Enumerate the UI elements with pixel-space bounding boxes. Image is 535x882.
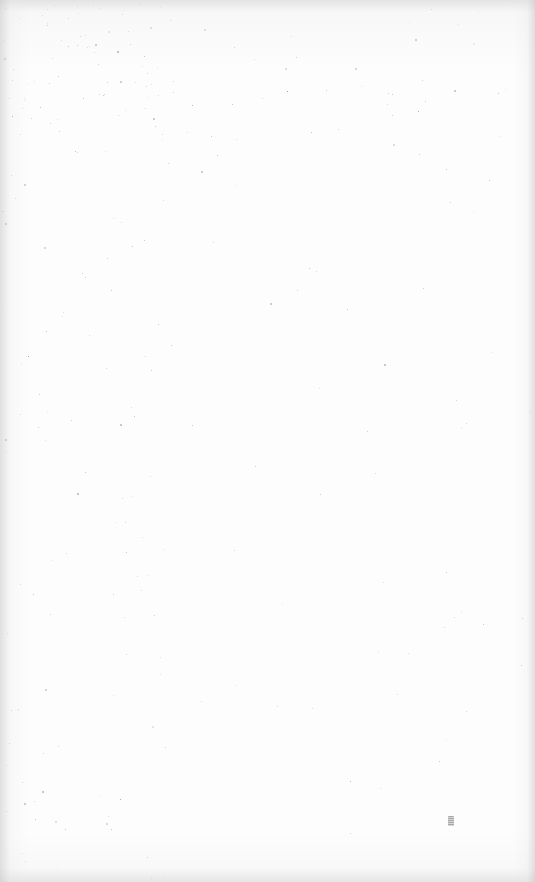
noise-speck — [164, 549, 165, 550]
noise-speck — [320, 494, 321, 495]
noise-speck — [213, 242, 214, 243]
noise-speck — [3, 40, 4, 41]
noise-speck — [146, 86, 147, 87]
noise-speck — [40, 107, 41, 108]
noise-speck — [384, 364, 386, 366]
noise-speck — [141, 590, 142, 591]
noise-speck — [125, 110, 126, 111]
noise-speck — [120, 81, 122, 83]
noise-speck — [392, 115, 393, 116]
noise-speck — [42, 791, 44, 793]
noise-speck — [135, 82, 136, 83]
noise-speck — [21, 363, 22, 364]
noise-speck — [140, 4, 141, 5]
noise-speck — [350, 781, 351, 782]
noise-speck — [103, 95, 104, 96]
noise-speck — [142, 537, 143, 538]
noise-speck — [282, 603, 283, 604]
noise-speck — [367, 431, 368, 432]
noise-speck — [107, 82, 108, 83]
noise-speck — [446, 169, 447, 170]
noise-speck — [120, 424, 122, 426]
noise-speck — [162, 139, 163, 140]
noise-speck — [388, 93, 389, 94]
noise-speck — [383, 582, 384, 583]
noise-speck — [46, 331, 47, 332]
noise-speck — [211, 136, 212, 137]
noise-speck — [309, 268, 310, 269]
noise-speck — [450, 202, 451, 203]
noise-speck — [77, 152, 78, 153]
noise-speck — [162, 134, 163, 135]
noise-speck — [58, 76, 59, 77]
noise-speck — [165, 747, 166, 748]
noise-speck — [312, 708, 313, 709]
noise-speck — [291, 36, 292, 37]
noise-speck — [113, 695, 114, 696]
noise-speck — [118, 115, 119, 116]
noise-speck — [123, 10, 124, 11]
noise-speck — [87, 47, 88, 48]
noise-speck — [151, 878, 152, 879]
noise-speck — [63, 312, 64, 313]
noise-speck — [62, 316, 63, 317]
noise-speck — [58, 746, 59, 747]
scanned-page — [0, 0, 535, 882]
noise-speck — [232, 104, 233, 105]
noise-speck — [44, 247, 46, 249]
noise-speck — [11, 710, 12, 711]
noise-speck — [78, 13, 79, 14]
noise-speck — [375, 473, 376, 474]
noise-speck — [168, 163, 169, 164]
noise-speck — [498, 93, 499, 94]
noise-speck — [6, 451, 7, 452]
noise-speck — [45, 689, 47, 691]
noise-speck — [473, 43, 475, 45]
noise-speck — [409, 22, 410, 23]
noise-speck — [160, 7, 161, 8]
noise-speck — [163, 200, 164, 201]
noise-speck — [45, 440, 46, 441]
noise-speck — [47, 411, 48, 412]
noise-speck — [5, 223, 7, 225]
noise-speck — [173, 92, 174, 93]
noise-speck — [75, 151, 76, 152]
noise-speck — [85, 35, 86, 36]
noise-speck — [152, 726, 154, 728]
noise-speck — [22, 108, 23, 109]
noise-speck — [82, 273, 83, 274]
noise-speck — [34, 801, 35, 802]
noise-speck — [24, 803, 26, 805]
noise-speck — [297, 290, 298, 291]
noise-speck — [454, 617, 455, 618]
noise-speck — [408, 653, 409, 654]
noise-speck — [121, 222, 122, 223]
noise-speck — [380, 788, 381, 789]
noise-speck — [144, 56, 145, 57]
noise-speck — [439, 761, 440, 762]
noise-speck — [155, 126, 156, 127]
noise-speck — [94, 52, 95, 53]
noise-speck — [54, 5, 55, 6]
noise-speck — [277, 706, 278, 707]
noise-speck — [392, 94, 393, 95]
noise-speck — [311, 132, 312, 133]
noise-speck — [65, 829, 66, 830]
noise-speck — [50, 614, 51, 615]
noise-speck — [47, 25, 48, 26]
noise-speck — [93, 5, 94, 6]
noise-speck — [148, 575, 149, 576]
noise-speck — [80, 36, 81, 37]
noise-speck — [116, 522, 117, 523]
noise-speck — [456, 400, 457, 401]
noise-speck — [192, 105, 193, 106]
noise-speck — [18, 709, 19, 710]
noise-speck — [454, 90, 456, 92]
noise-speck — [57, 119, 58, 120]
noise-speck — [2, 311, 3, 312]
noise-speck — [122, 14, 123, 15]
noise-speck — [201, 701, 202, 702]
noise-speck — [120, 799, 121, 800]
noise-speck — [160, 674, 161, 675]
noise-speck — [35, 819, 36, 820]
